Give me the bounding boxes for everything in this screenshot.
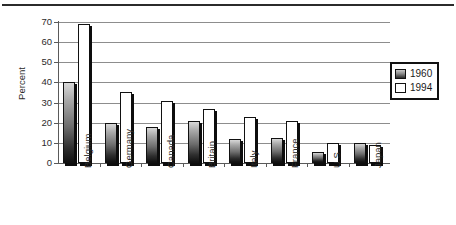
y-axis-tick-label: 30 <box>30 98 52 108</box>
y-axis-tick-label: 50 <box>30 57 52 67</box>
y-axis-tick-label: 10 <box>30 138 52 148</box>
y-axis-line <box>58 21 59 164</box>
y-axis-tick-label-wrap: 10 <box>26 138 52 148</box>
y-axis-tick-label-wrap: 40 <box>26 77 52 87</box>
chart-figure: Percent 010203040506070 BelgiumGermanyCa… <box>0 0 456 225</box>
y-axis-tick-label: 70 <box>30 17 52 27</box>
legend-label-1960: 1960 <box>410 69 432 79</box>
x-axis-label-britain: Britain <box>206 141 217 168</box>
bar-shadow <box>282 140 285 165</box>
bar-shadow <box>199 123 202 165</box>
bar-japan-1960 <box>354 143 368 163</box>
y-axis-tick-label: 60 <box>30 37 52 47</box>
y-axis-tick-label-wrap: 0 <box>26 158 52 168</box>
x-axis-label-japan: Japan <box>372 142 383 168</box>
bar-france-1960 <box>271 138 285 163</box>
bar-shadow <box>116 125 119 165</box>
x-axis-label-france: France <box>289 138 300 168</box>
y-axis-tick-label-wrap: 20 <box>26 118 52 128</box>
gridline <box>58 42 390 43</box>
x-axis-tick <box>266 163 267 167</box>
gridline <box>58 62 390 63</box>
legend-item-1960[interactable]: 1960 <box>395 67 432 81</box>
bar-germany-1960 <box>105 123 119 163</box>
gridline <box>58 103 390 104</box>
bar-base <box>273 163 285 166</box>
bar-base <box>356 163 368 166</box>
x-axis-tick <box>183 163 184 167</box>
x-axis-label-us: U.S. <box>331 150 342 168</box>
bar-base <box>314 163 326 166</box>
bar-belgium-1960 <box>63 82 77 163</box>
bar-base <box>148 163 160 166</box>
x-axis-tick <box>349 163 350 167</box>
y-axis-tick-label: 0 <box>30 158 52 168</box>
y-axis-tick-label-wrap: 70 <box>26 17 52 27</box>
bar-shadow <box>74 84 77 165</box>
bar-shadow <box>157 129 160 165</box>
bar-shadow <box>365 145 368 165</box>
x-axis-tick <box>224 163 225 167</box>
bar-us-1960 <box>312 152 326 163</box>
gridline <box>58 82 390 83</box>
y-axis-tick-label: 40 <box>30 77 52 87</box>
x-axis-label-belgium: Belgium <box>82 134 93 168</box>
bar-base <box>231 163 243 166</box>
bar-italy-1960 <box>229 139 243 163</box>
x-axis-label-italy: Italy <box>248 151 259 168</box>
y-axis-title: Percent <box>16 54 27 114</box>
plot-area: Percent 010203040506070 BelgiumGermanyCa… <box>0 0 456 225</box>
bar-base <box>107 163 119 166</box>
x-axis-tick <box>100 163 101 167</box>
y-axis-tick-label-wrap: 30 <box>26 98 52 108</box>
bar-britain-1960 <box>188 121 202 163</box>
y-axis-tick-label-wrap: 60 <box>26 37 52 47</box>
legend-item-1994[interactable]: 1994 <box>395 81 432 95</box>
x-axis-label-germany: Germany <box>123 129 134 168</box>
gridline <box>58 22 390 23</box>
legend-label-1994: 1994 <box>410 83 432 93</box>
bar-base <box>65 163 77 166</box>
bar-canada-1960 <box>146 127 160 163</box>
legend-swatch-1994 <box>395 83 406 93</box>
legend: 1960 1994 <box>390 62 439 100</box>
x-axis-tick <box>307 163 308 167</box>
bar-base <box>190 163 202 166</box>
bar-shadow <box>240 141 243 165</box>
y-axis-tick-label: 20 <box>30 118 52 128</box>
legend-swatch-1960 <box>395 69 406 79</box>
x-axis-tick <box>141 163 142 167</box>
y-axis-tick-label-wrap: 50 <box>26 57 52 67</box>
x-axis-label-canada: Canada <box>165 135 176 168</box>
